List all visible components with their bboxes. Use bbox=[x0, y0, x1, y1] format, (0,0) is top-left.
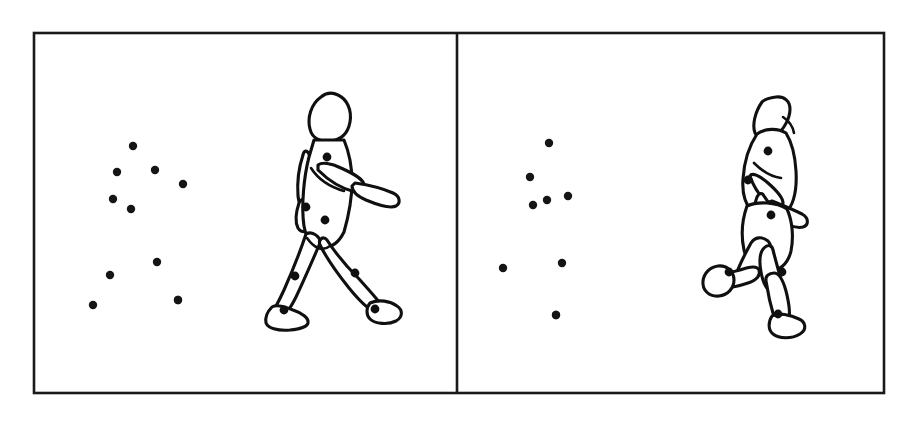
panel-left bbox=[34, 33, 457, 393]
dot-wrist-left bbox=[127, 205, 135, 213]
dot-ankle bbox=[174, 296, 182, 304]
joint-knee-back bbox=[291, 272, 300, 281]
dot-head bbox=[545, 139, 553, 147]
panel-right bbox=[457, 33, 884, 393]
dot-ankle-support bbox=[499, 264, 507, 272]
dot-hip bbox=[564, 192, 572, 200]
joint-elbow bbox=[302, 203, 311, 212]
dot-hip-left bbox=[106, 271, 114, 279]
joint-foot bbox=[774, 310, 783, 319]
dot-toe bbox=[552, 311, 560, 319]
dot-shoulder-right bbox=[151, 166, 159, 174]
joint-shoulder bbox=[323, 153, 332, 162]
panel-right-background bbox=[457, 33, 884, 393]
joint-elbow bbox=[744, 176, 753, 185]
joint-knee-front bbox=[351, 269, 360, 278]
dot-shoulder bbox=[526, 173, 534, 181]
joint-hip bbox=[321, 216, 330, 225]
figure-head bbox=[309, 93, 350, 141]
dot-shoulder-left bbox=[113, 168, 121, 176]
dot-elbow-right bbox=[179, 180, 187, 188]
figure-canvas bbox=[0, 0, 921, 422]
dot-knee-raised bbox=[558, 259, 566, 267]
dot-wrist bbox=[543, 196, 551, 204]
dot-elbow-left bbox=[109, 195, 117, 203]
dot-hip-right bbox=[153, 258, 161, 266]
dot-knee-left bbox=[89, 301, 97, 309]
biological-motion-figure bbox=[0, 0, 921, 422]
dot-elbow bbox=[529, 201, 537, 209]
panel-left-background bbox=[34, 33, 457, 393]
figure-foot-support bbox=[769, 314, 805, 338]
joint-knee bbox=[778, 268, 787, 277]
joint-hip bbox=[767, 211, 776, 220]
dot-head bbox=[129, 142, 137, 150]
joint-shoulder bbox=[764, 147, 773, 156]
joint-ankle-front bbox=[371, 305, 380, 314]
joint-ankle bbox=[725, 268, 734, 277]
joint-ankle-back bbox=[280, 306, 289, 315]
